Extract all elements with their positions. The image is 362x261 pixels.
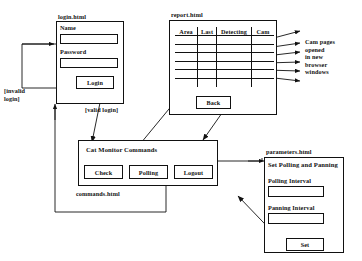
table-header-area: Area [175,27,198,36]
report-table: Area Last Detecting Cam [175,27,274,87]
cell-cam[interactable] [252,78,275,86]
cell-area [175,78,198,86]
login-submit-button[interactable]: Login [76,76,114,89]
table-row [175,53,274,62]
polling-interval-input[interactable] [268,186,324,197]
cell-last [198,53,217,62]
table-row [175,44,274,53]
table-header-row: Area Last Detecting Cam [175,27,274,36]
table-row [175,36,274,45]
login-password-label: Password [60,48,86,55]
invalid-login-edge-label-line1: [invalid [4,87,25,95]
cell-detecting [217,36,252,45]
cell-cam[interactable] [252,70,275,79]
panning-interval-input[interactable] [268,213,324,224]
polling-button[interactable]: Polling [129,165,168,179]
login-password-input[interactable] [60,58,118,68]
cell-cam[interactable] [252,61,275,70]
cam-pages-note-line: browser [305,61,335,69]
cell-detecting [217,53,252,62]
table-header-last: Last [198,27,217,36]
cell-area [175,70,198,79]
invalid-login-edge-label: [invalid login] [4,87,25,102]
cell-area [175,44,198,53]
login-name-label: Name [60,24,76,31]
cell-last [198,61,217,70]
logout-button[interactable]: Logout [174,165,213,179]
cell-detecting [217,78,252,86]
cell-cam[interactable] [252,44,275,53]
table-row [175,78,274,86]
cam-pages-note-line: in new [305,53,335,61]
cell-area [175,36,198,45]
commands-title: Cat Monitor Commands [86,146,157,153]
cell-detecting [217,70,252,79]
cell-cam[interactable] [252,53,275,62]
cell-cam[interactable] [252,36,275,45]
cell-area [175,53,198,62]
diagram-canvas: login.html Name Password Login [invalid … [0,0,362,261]
cam-pages-note-line: windows [305,68,335,76]
report-back-button[interactable]: Back [196,96,231,109]
report-page-label: report.html [171,11,203,18]
cell-last [198,44,217,53]
parameters-page-label: parameters.html [266,148,312,155]
table-header-cam: Cam [252,27,275,36]
parameters-title: Set Polling and Panning [268,161,338,168]
cell-area [175,61,198,70]
invalid-login-edge-label-line2: login] [4,95,25,103]
login-name-input[interactable] [60,34,118,44]
commands-page-label: commands.html [76,190,120,197]
cell-detecting [217,61,252,70]
cell-last [198,36,217,45]
cell-last [198,78,217,86]
check-button[interactable]: Check [84,165,123,179]
login-page-label: login.html [58,13,86,20]
cam-pages-note-line: opened [305,46,335,54]
valid-login-edge-label: [valid login] [85,106,118,114]
set-button[interactable]: Set [286,238,324,251]
polling-interval-label: Polling Interval [268,177,311,184]
table-row [175,70,274,79]
panning-interval-label: Panning Interval [268,204,314,211]
cell-last [198,70,217,79]
table-row [175,61,274,70]
cam-pages-note-line: Cam pages [305,38,335,46]
cam-pages-note: Cam pages opened in new browser windows [305,38,335,76]
cell-detecting [217,44,252,53]
table-header-detecting: Detecting [217,27,252,36]
